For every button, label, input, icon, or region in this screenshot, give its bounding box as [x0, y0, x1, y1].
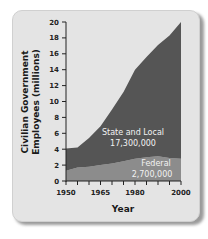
y-tick-label: 8 [54, 114, 59, 122]
state-local-label: State and Local [102, 128, 164, 137]
x-tick-label: 1965 [91, 189, 111, 197]
federal-label: Federal [141, 159, 171, 168]
y-tick-label: 12 [49, 82, 59, 90]
x-tick-label: 1980 [125, 189, 145, 197]
y-tick-label: 10 [49, 98, 59, 106]
y-tick-label: 4 [54, 146, 59, 154]
y-tick-label: 2 [54, 162, 59, 170]
y-tick-label: 14 [49, 66, 59, 74]
chart-areas [66, 22, 181, 181]
state-local-value: 17,300,000 [110, 139, 156, 148]
x-axis-title: Year [111, 204, 135, 214]
y-tick-label: 18 [49, 34, 59, 42]
y-tick-label: 16 [49, 50, 59, 58]
y-tick-label: 6 [54, 130, 59, 138]
y-axis-title-line2: Employees (millions) [31, 49, 41, 155]
x-tick-label: 2000 [171, 189, 191, 197]
y-axis-title-line1: Civilian Government [20, 50, 30, 154]
y-tick-label: 20 [49, 19, 59, 27]
area-state-and-local [66, 22, 181, 171]
y-tick-label: 0 [54, 178, 59, 186]
y-axis-title-2: Employees (millions) [31, 49, 41, 155]
y-axis-title: Civilian Government [20, 50, 30, 154]
federal-value: 2,700,000 [132, 170, 173, 179]
area-chart: 024681012141618201950196519802000 Civili… [0, 0, 208, 239]
x-tick-label: 1950 [56, 189, 76, 197]
